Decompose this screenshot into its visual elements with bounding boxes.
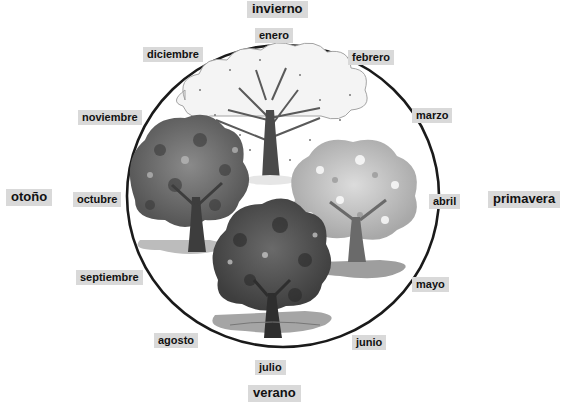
month-label-december: diciembre (143, 47, 203, 62)
month-label-february: febrero (348, 50, 394, 65)
month-label-august: agosto (154, 333, 198, 348)
season-label-spring: primavera (488, 191, 560, 208)
month-label-january: enero (255, 28, 293, 43)
summer-tree-icon (212, 199, 331, 338)
month-label-march: marzo (412, 108, 452, 123)
month-label-november: noviembre (78, 110, 142, 125)
season-label-autumn: otoño (6, 189, 52, 206)
season-label-summer: verano (248, 385, 301, 402)
month-label-october: octubre (73, 192, 121, 207)
month-label-september: septiembre (76, 270, 143, 285)
month-label-may: mayo (412, 277, 449, 292)
season-label-winter: invierno (247, 1, 308, 18)
month-label-june: junio (352, 335, 386, 350)
month-label-april: abril (429, 194, 460, 209)
month-label-july: julio (255, 360, 286, 375)
